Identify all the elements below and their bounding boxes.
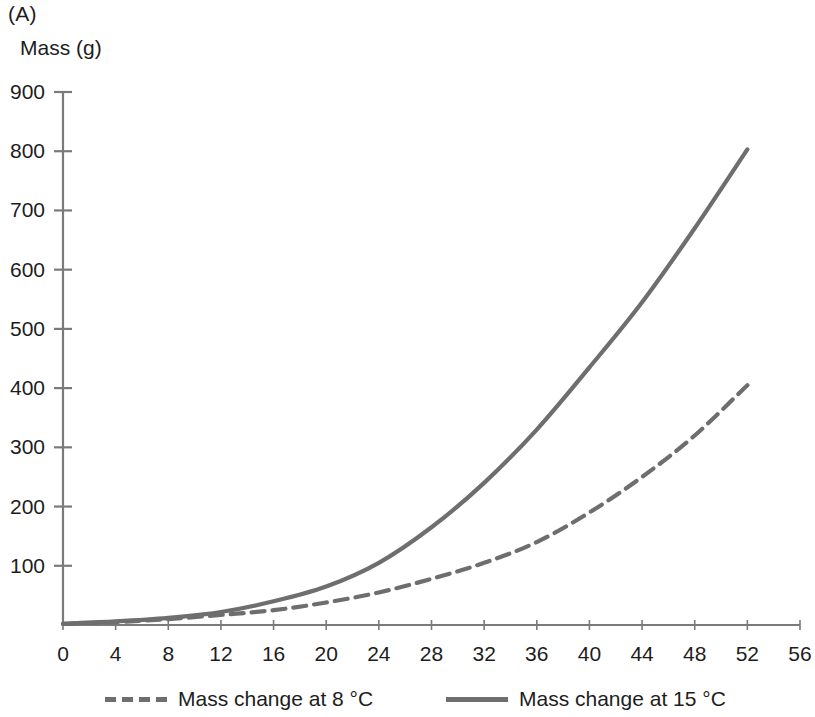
x-tick-label: 36 (517, 643, 557, 664)
legend-item-15c: Mass change at 15 °C (446, 686, 726, 712)
series-line-8c (63, 385, 747, 624)
x-tick-label: 28 (412, 643, 452, 664)
chart-plot-area: 100200300400500600700800900 048121620242… (0, 0, 815, 680)
x-tick-label: 8 (148, 643, 188, 664)
y-tick-label: 200 (0, 496, 45, 517)
y-tick-label: 900 (0, 81, 45, 102)
x-tick-label: 56 (780, 643, 815, 664)
x-tick-label: 12 (201, 643, 241, 664)
chart-series-group (63, 149, 747, 623)
x-tick-label: 32 (464, 643, 504, 664)
chart-legend: Mass change at 8 °C Mass change at 15 °C (0, 686, 815, 717)
series-line-15c (63, 149, 747, 623)
legend-swatch-solid-icon (446, 697, 508, 702)
legend-label-15c: Mass change at 15 °C (519, 687, 726, 711)
x-tick-label: 52 (727, 643, 767, 664)
x-tick-label: 48 (675, 643, 715, 664)
x-tick-label: 20 (306, 643, 346, 664)
x-tick-label: 16 (254, 643, 294, 664)
x-tick-label: 44 (622, 643, 662, 664)
x-tick-label: 40 (569, 643, 609, 664)
legend-label-8c: Mass change at 8 °C (178, 687, 373, 711)
y-tick-label: 600 (0, 259, 45, 280)
y-tick-label: 100 (0, 555, 45, 576)
legend-swatch-dashed-icon (105, 697, 167, 702)
chart-axes (63, 92, 800, 625)
legend-item-8c: Mass change at 8 °C (105, 686, 373, 712)
x-tick-label: 4 (96, 643, 136, 664)
y-tick-label: 300 (0, 436, 45, 457)
chart-svg (0, 0, 815, 680)
y-tick-label: 800 (0, 140, 45, 161)
y-tick-label: 500 (0, 318, 45, 339)
y-tick-label: 400 (0, 377, 45, 398)
x-tick-label: 0 (43, 643, 83, 664)
y-tick-label: 700 (0, 199, 45, 220)
x-tick-label: 24 (359, 643, 399, 664)
